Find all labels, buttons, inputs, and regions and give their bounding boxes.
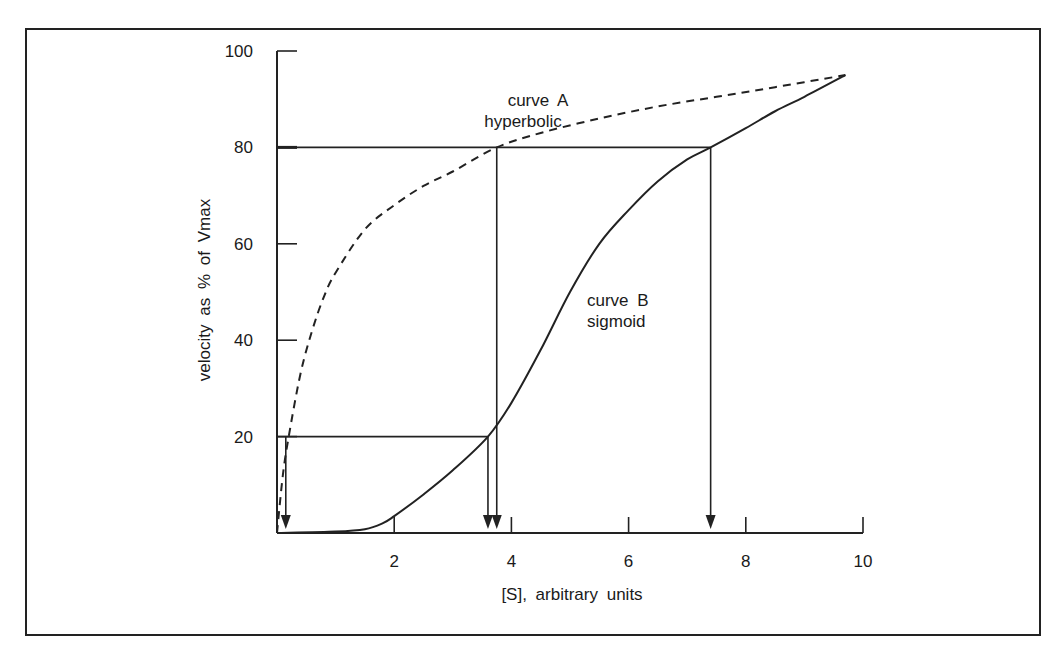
curve-b-label: curve B bbox=[587, 291, 649, 310]
y-tick-label: 60 bbox=[234, 235, 253, 254]
curve-a-hyperbolic bbox=[277, 75, 845, 533]
curves bbox=[277, 75, 845, 533]
x-tick-label: 4 bbox=[507, 552, 516, 571]
x-axis-title: [S], arbitrary units bbox=[501, 585, 642, 604]
x-tick-label: 10 bbox=[854, 552, 873, 571]
y-tick-label: 80 bbox=[234, 138, 253, 157]
chart: 24681020406080100 curve Ahyperboliccurve… bbox=[0, 0, 1058, 653]
annotations bbox=[277, 147, 716, 529]
curve-a-label: curve A bbox=[508, 91, 569, 110]
x-tick-label: 6 bbox=[624, 552, 633, 571]
y-tick-label: 40 bbox=[234, 331, 253, 350]
arrow-down-icon bbox=[492, 515, 502, 529]
y-axis-title: velocity as % of Vmax bbox=[195, 198, 214, 381]
arrow-down-icon bbox=[281, 515, 291, 529]
y-tick-label: 20 bbox=[234, 428, 253, 447]
curve-a-sublabel: hyperbolic bbox=[484, 112, 562, 131]
arrow-down-icon bbox=[483, 515, 493, 529]
x-tick-label: 8 bbox=[741, 552, 750, 571]
curve-b-sigmoid bbox=[277, 75, 845, 533]
y-tick-label: 100 bbox=[225, 42, 253, 61]
arrow-down-icon bbox=[706, 515, 716, 529]
curve-b-sublabel: sigmoid bbox=[587, 312, 646, 331]
x-tick-label: 2 bbox=[389, 552, 398, 571]
